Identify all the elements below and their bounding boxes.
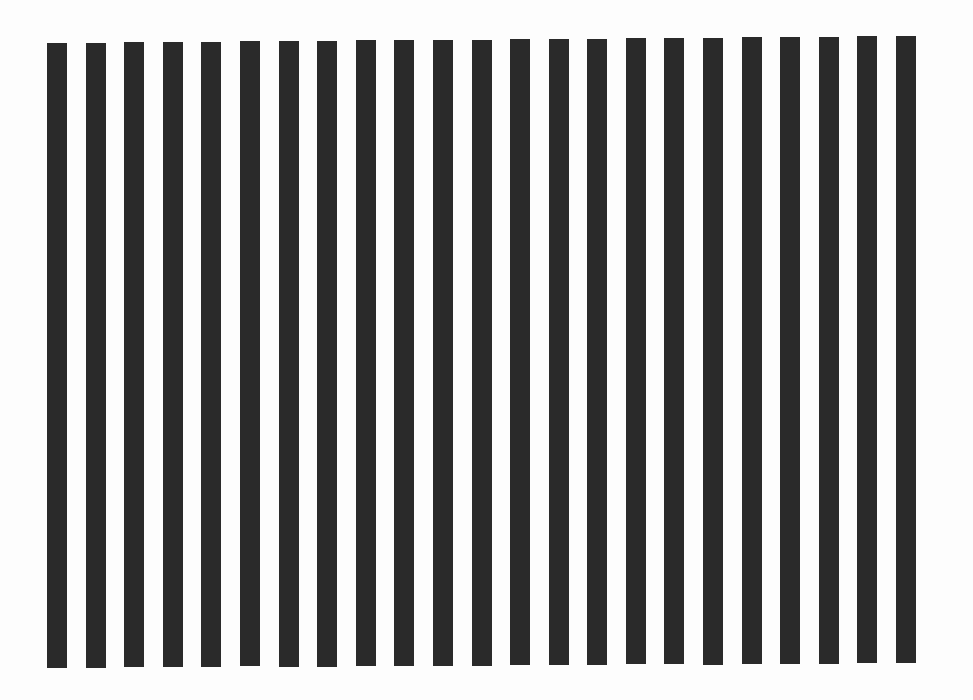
grating-bar (819, 37, 839, 664)
grating-bar (549, 39, 569, 665)
grating-bar (857, 36, 877, 663)
grating-bar (240, 41, 260, 666)
grating-bar (510, 39, 530, 665)
grating-bar (587, 39, 607, 665)
grating-bar (626, 38, 646, 664)
grating-bar (86, 43, 106, 668)
grating-bar (124, 42, 144, 667)
grating-image (0, 0, 973, 700)
grating-bar (664, 38, 684, 664)
grating-bar (780, 37, 800, 664)
grating-bar (201, 42, 221, 667)
grating-bar (356, 40, 376, 666)
grating-bar (433, 40, 453, 666)
grating-bar (703, 38, 723, 665)
grating-bar (47, 43, 67, 668)
grating-bar (472, 40, 492, 666)
grating-bar (394, 40, 414, 666)
grating-bar (742, 37, 762, 664)
grating-bar (163, 42, 183, 667)
grating-bar (317, 41, 337, 667)
grating-bar (279, 41, 299, 667)
grating-bar (896, 36, 916, 663)
